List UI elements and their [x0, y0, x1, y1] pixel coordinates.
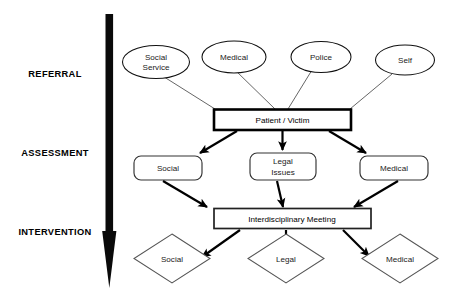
link-police-to-patient: [288, 70, 312, 109]
flowchart-svg: REFERRAL ASSESSMENT INTERVENTION Social …: [0, 0, 453, 300]
intervention-node-medical[interactable]: Medical: [362, 234, 438, 283]
arrow-meeting-to-medical: [343, 230, 369, 256]
referral-source-label-line2: Service: [143, 63, 170, 72]
assessment-inbound-arrows: [200, 131, 366, 153]
arrow-meeting-to-social: [202, 230, 240, 257]
node-patient-victim[interactable]: Patient / Victim: [214, 110, 351, 131]
arrow-medical-to-meeting: [354, 181, 398, 207]
intervention-node-social[interactable]: Social: [134, 234, 210, 283]
link-social-service-to-patient: [161, 75, 215, 109]
stage-label-referral: REFERRAL: [28, 69, 81, 79]
assessment-node-legal-issues[interactable]: Legal Issues: [250, 153, 316, 180]
arrow-legal-issues-to-meeting: [277, 181, 283, 207]
node-interdisciplinary-meeting[interactable]: Interdisciplinary Meeting: [214, 209, 371, 229]
referral-source-police[interactable]: Police: [291, 42, 351, 73]
referral-source-label-line1: Social: [145, 53, 167, 62]
meeting-inbound-arrows: [163, 181, 398, 207]
assessment-node-social[interactable]: Social: [134, 156, 202, 180]
assessment-node-label-line1: Medical: [380, 164, 408, 173]
referral-source-label-line1: Police: [310, 53, 333, 62]
arrow-patient-to-social: [200, 131, 237, 153]
assessment-node-label-line1: Legal: [273, 157, 293, 166]
referral-source-medical[interactable]: Medical: [202, 41, 266, 73]
link-medical-to-patient: [235, 70, 275, 109]
intervention-node-label: Medical: [386, 255, 414, 264]
downward-progression-arrow: [102, 14, 116, 288]
referral-connectors: [161, 70, 392, 109]
arrow-patient-to-medical: [329, 131, 366, 153]
intervention-node-label: Legal: [276, 255, 296, 264]
referral-source-social-service[interactable]: Social Service: [123, 46, 190, 79]
stage-label-assessment: ASSESSMENT: [21, 148, 89, 158]
assessment-node-medical[interactable]: Medical: [360, 156, 428, 180]
link-self-to-patient: [350, 74, 392, 109]
node-label: Interdisciplinary Meeting: [248, 215, 335, 224]
flowchart-canvas: REFERRAL ASSESSMENT INTERVENTION Social …: [0, 0, 453, 300]
referral-source-self[interactable]: Self: [376, 45, 435, 75]
assessment-node-label-line1: Social: [157, 164, 179, 173]
intervention-node-legal[interactable]: Legal: [248, 234, 324, 283]
intervention-node-label: Social: [161, 255, 183, 264]
assessment-node-label-line2: Issues: [271, 168, 294, 177]
referral-source-label-line1: Medical: [220, 53, 248, 62]
arrow-social-to-meeting: [163, 181, 207, 207]
stage-label-intervention: INTERVENTION: [18, 227, 91, 237]
referral-source-label-line1: Self: [398, 56, 413, 65]
node-label: Patient / Victim: [256, 116, 310, 125]
